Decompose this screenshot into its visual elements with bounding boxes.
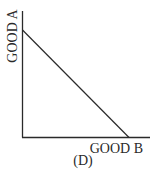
ppf-diagram: GOOD A GOOD B (D) <box>0 0 150 171</box>
diagram-canvas: GOOD A GOOD B (D) <box>0 0 150 171</box>
x-axis-label: GOOD B <box>90 141 143 156</box>
frontier-line <box>23 30 130 138</box>
diagram-caption: (D) <box>73 153 93 169</box>
y-axis-label: GOOD A <box>5 8 20 62</box>
